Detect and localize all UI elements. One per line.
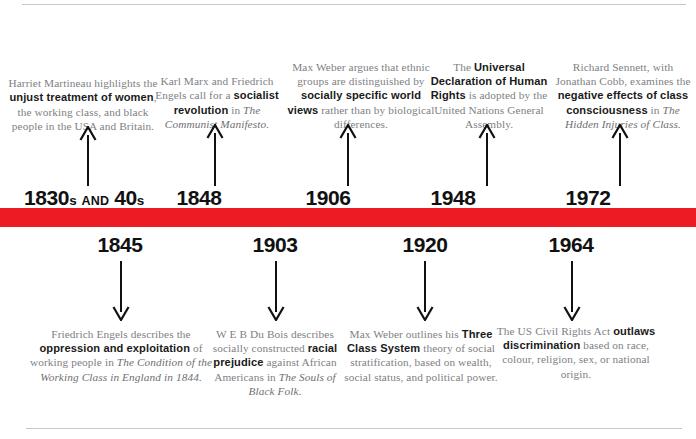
year-label-1906: 1906 (288, 187, 368, 208)
year-label-1972: 1972 (548, 187, 628, 208)
event-description-1830s-and-40s: Harriet Martineau highlights the unjust … (8, 76, 158, 133)
event-description-1920: Max Weber outlines his Three Class Syste… (336, 327, 506, 384)
year-label-1845: 1845 (80, 234, 160, 255)
event-description-1903: W E B Du Bois describes socially constru… (200, 327, 350, 398)
year-label-1920: 1920 (385, 234, 465, 255)
year-label-1848: 1848 (159, 187, 239, 208)
bottom-rule (26, 428, 682, 429)
arrow-down-1845 (110, 261, 132, 321)
event-description-1964: The US Civil Rights Act outlaws discrimi… (494, 324, 658, 381)
event-description-wrap-1972: Richard Sennett, with Jonathan Cobb, exa… (552, 0, 694, 131)
event-description-wrap-1845: Friedrich Engels describes the oppressio… (26, 327, 216, 384)
arrow-up-1848 (204, 124, 226, 186)
event-description-wrap-1948: The Universal Declaration of Human Right… (424, 0, 554, 131)
arrow-up-1972 (609, 124, 631, 186)
year-label-1964: 1964 (531, 234, 611, 255)
timeline-infographic: Harriet Martineau highlights the unjust … (0, 0, 696, 439)
event-description-wrap-1964: The US Civil Rights Act outlaws discrimi… (494, 324, 658, 381)
event-description-1845: Friedrich Engels describes the oppressio… (26, 327, 216, 384)
arrow-up-1948 (476, 124, 498, 186)
year-label-1830s-and-40s: 1830s AND 40s (24, 187, 144, 212)
event-description-1906: Max Weber argues that ethnic groups are … (286, 60, 436, 131)
event-description-1848: Karl Marx and Friedrich Engels call for … (152, 74, 282, 131)
event-description-wrap-1920: Max Weber outlines his Three Class Syste… (336, 327, 506, 384)
arrow-up-1906 (337, 124, 359, 186)
event-description-wrap-1903: W E B Du Bois describes socially constru… (200, 327, 350, 398)
arrow-down-1964 (561, 261, 583, 321)
arrow-down-1903 (265, 261, 287, 321)
arrow-up-1830s-and-40s (77, 126, 99, 186)
year-label-1903: 1903 (235, 234, 315, 255)
event-description-1948: The Universal Declaration of Human Right… (424, 60, 554, 131)
event-description-wrap-1830s-and-40s: Harriet Martineau highlights the unjust … (8, 0, 158, 133)
year-label-1948: 1948 (413, 187, 493, 208)
event-description-wrap-1906: Max Weber argues that ethnic groups are … (286, 0, 436, 131)
arrow-down-1920 (414, 261, 436, 321)
event-description-wrap-1848: Karl Marx and Friedrich Engels call for … (152, 0, 282, 131)
event-description-1972: Richard Sennett, with Jonathan Cobb, exa… (552, 60, 694, 131)
